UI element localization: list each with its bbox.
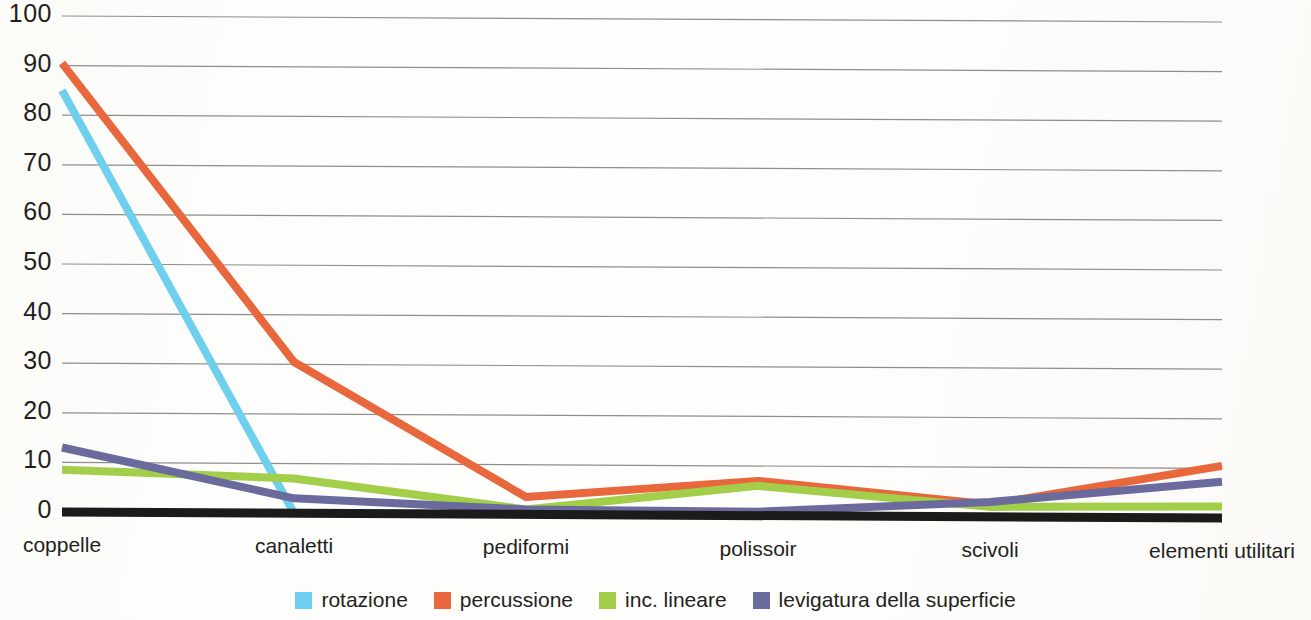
y-axis-tick-label: 70 xyxy=(0,148,52,177)
legend-item[interactable]: inc. lineare xyxy=(599,588,727,612)
y-axis-tick-label: 40 xyxy=(0,297,52,326)
legend-item[interactable]: rotazione xyxy=(295,588,407,612)
legend-label: rotazione xyxy=(321,588,407,612)
x-axis-tick-label: polissoir xyxy=(719,537,796,561)
x-axis-tick-label: pediformi xyxy=(483,535,569,559)
legend-label: inc. lineare xyxy=(625,588,727,612)
legend-item[interactable]: percussione xyxy=(434,588,573,612)
y-axis-tick-label: 80 xyxy=(0,98,52,127)
gridline xyxy=(62,462,1222,468)
gridline xyxy=(62,165,1222,171)
legend-item[interactable]: levigatura della superficie xyxy=(753,588,1016,612)
x-axis-tick-label: coppelle xyxy=(23,533,101,557)
y-axis-tick-label: 20 xyxy=(0,396,52,425)
gridline xyxy=(62,264,1222,270)
x-axis-tick-label: elementi utilitari xyxy=(1149,539,1295,563)
chart-legend: rotazionepercussioneinc. linearelevigatu… xyxy=(0,588,1311,612)
legend-label: percussione xyxy=(460,588,573,612)
y-axis-tick-label: 0 xyxy=(0,495,52,524)
legend-label: levigatura della superficie xyxy=(779,588,1016,612)
legend-swatch-icon xyxy=(753,592,770,609)
gridline xyxy=(62,214,1222,220)
gridline xyxy=(62,363,1222,369)
y-axis-tick-label: 50 xyxy=(0,247,52,276)
plot-area xyxy=(0,0,1311,620)
x-axis-baseline xyxy=(62,512,1222,518)
axis-baseline-group xyxy=(62,512,1222,518)
gridline xyxy=(62,115,1222,121)
gridline xyxy=(62,66,1222,72)
x-axis-tick-label: canaletti xyxy=(255,534,333,558)
legend-swatch-icon xyxy=(599,592,616,609)
legend-swatch-icon xyxy=(295,592,312,609)
legend-swatch-icon xyxy=(434,592,451,609)
series-line xyxy=(62,63,1222,504)
series-line xyxy=(62,90,1222,518)
line-chart: 0102030405060708090100 coppellecanaletti… xyxy=(0,0,1311,620)
x-axis-tick-label: scivoli xyxy=(961,538,1018,562)
y-axis-tick-label: 90 xyxy=(0,49,52,78)
y-axis-tick-label: 60 xyxy=(0,197,52,226)
y-axis-tick-label: 30 xyxy=(0,346,52,375)
gridline xyxy=(62,314,1222,320)
series-lines-group xyxy=(62,63,1222,518)
y-axis-tick-label: 100 xyxy=(0,0,52,28)
y-axis-tick-label: 10 xyxy=(0,445,52,474)
gridline xyxy=(62,16,1222,22)
